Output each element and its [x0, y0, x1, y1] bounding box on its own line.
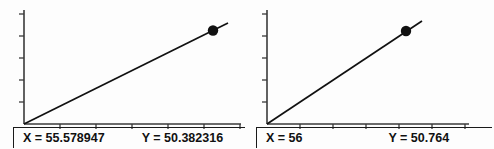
plot-panel-right: X = 56 Y = 50.764 [247, 0, 494, 149]
data-point-marker [401, 26, 411, 36]
plot-panel-left: X = 55.578947 Y = 50.382316 [0, 0, 247, 149]
dual-plot-figure: X = 55.578947 Y = 50.382316 [0, 0, 494, 149]
x-value-readout: X = 55.578947 [23, 132, 105, 145]
data-point-marker [208, 25, 218, 35]
data-line [24, 23, 228, 124]
x-value-readout: X = 56 [266, 132, 303, 145]
y-value-readout: Y = 50.382316 [142, 132, 223, 145]
data-line [267, 21, 422, 124]
plot-area-right: X = 56 Y = 50.764 [247, 0, 494, 149]
plot-area-left: X = 55.578947 Y = 50.382316 [0, 0, 247, 149]
coordinate-readout-left: X = 55.578947 Y = 50.382316 [13, 127, 245, 148]
coordinate-readout-right: X = 56 Y = 50.764 [256, 127, 492, 148]
y-value-readout: Y = 50.764 [389, 132, 450, 145]
